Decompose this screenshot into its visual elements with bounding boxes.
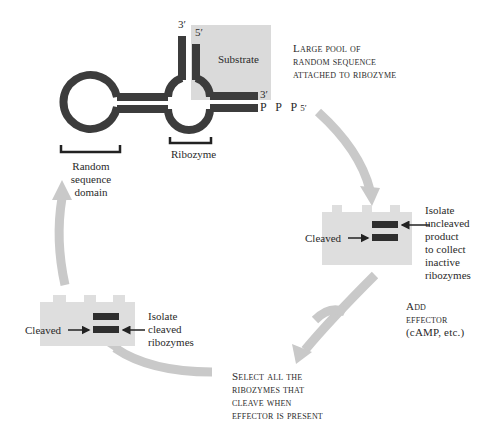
step-isolate-uncleaved-label: Isolate uncleaved product to collect ina… [425,204,471,282]
random-domain-label: Random sequence domain [62,160,120,199]
strand-5prime-label: 5′ [195,26,203,38]
arrow-pool-to-gel [318,112,370,190]
step-add-effector-label: Add effector (cAMP, etc.) [406,300,464,339]
gel-left [40,295,145,346]
triphosphate: P P P [260,100,300,114]
right-gel-cleaved-label: Cleaved [305,232,341,245]
random-domain-line: Random [62,160,120,173]
random-domain-line: sequence [62,173,120,186]
isolate-uncleaved-line: to collect [425,243,471,256]
arrow-leftgel-to-domain [59,198,65,285]
isolate-cleaved-line: Isolate [148,310,194,323]
step-isolate-cleaved-label: Isolate cleaved ribozymes [148,310,194,349]
triphosphate-label: P P P5′ [260,100,307,115]
isolate-cleaved-line: ribozymes [148,336,194,349]
step-pool-line: random sequence [293,55,396,68]
strand-3prime-label: 3′ [178,18,186,30]
ribozyme-label: Ribozyme [171,148,216,161]
band-upper [93,313,119,320]
add-effector-line: (cAMP, etc.) [406,326,464,339]
step-pool-label: Large pool of random sequence attached t… [293,42,396,81]
band-cleaved [93,326,119,333]
select-line: effector is present [232,409,323,422]
isolate-uncleaved-line: uncleaved [425,217,471,230]
isolate-cleaved-line: cleaved [148,323,194,336]
band-uncleaved [372,221,398,228]
select-line: ribozymes that [232,383,323,396]
ribozyme-bracket [170,137,211,143]
step-pool-line: Large pool of [293,42,396,55]
select-line: Select all the [232,370,323,383]
isolate-uncleaved-line: inactive [425,256,471,269]
triphosphate-5prime: 5′ [300,103,306,113]
step-pool-line: attached to ribozyme [293,68,396,81]
add-effector-line: effector [406,313,464,326]
isolate-uncleaved-line: product [425,230,471,243]
left-gel-cleaved-label: Cleaved [25,324,61,337]
substrate-label: Substrate [218,53,259,66]
random-domain-line: domain [62,186,120,199]
isolate-uncleaved-line: ribozymes [425,269,471,282]
band-cleaved [372,234,398,241]
select-line: cleave when [232,396,323,409]
step-select-label: Select all the ribozymes that cleave whe… [232,370,323,422]
add-effector-line: Add [406,300,464,313]
arrow-select-to-leftgel [115,348,212,372]
random-domain-bracket [61,145,120,152]
substrate-3prime-label: 3′ [260,88,268,100]
isolate-uncleaved-line: Isolate [425,204,471,217]
